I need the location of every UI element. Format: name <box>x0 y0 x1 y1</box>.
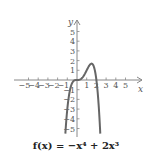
y-tick-label: −3 <box>63 105 75 114</box>
y-axis-label: y <box>67 17 74 27</box>
x-axis-label: x <box>138 84 143 94</box>
function-caption: f(x) = −x⁴ + 2x³ <box>0 140 152 151</box>
y-tick-label: 3 <box>70 47 75 56</box>
y-tick-label: 4 <box>70 37 75 46</box>
x-tick-label: 1 <box>84 81 89 90</box>
x-tick-label: 5 <box>123 81 128 90</box>
y-tick-label: 2 <box>70 57 75 66</box>
x-tick-label: 4 <box>113 81 118 90</box>
y-tick-label: 5 <box>70 28 75 37</box>
x-tick-label: 3 <box>104 81 109 90</box>
y-tick-label: 1 <box>70 66 75 75</box>
y-tick-label: −4 <box>63 115 75 124</box>
function-graph: xy −5−4−3−2−112345−5−4−3−2−112345 <box>0 0 152 140</box>
